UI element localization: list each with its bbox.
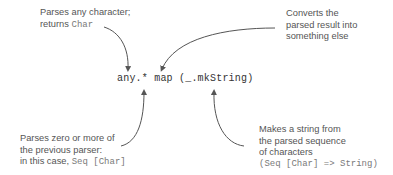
annotation-line: the parsed sequence xyxy=(259,136,378,148)
annotation-text: in this case, xyxy=(20,156,72,166)
annotation-line: Makes a string from xyxy=(259,124,378,136)
annotation-line: Converts the xyxy=(286,8,357,20)
annotation-line: parsed result into xyxy=(286,20,357,32)
parser-combinator-diagram: any.* map (_.mkString) Parses any charac… xyxy=(0,0,393,175)
inline-code-seq-char: Seq [Char] xyxy=(72,157,126,167)
annotation-repetition: Parses zero or more of the previous pars… xyxy=(20,133,126,169)
parser-expression: any.* map (_.mkString) xyxy=(117,73,253,84)
arrow-mkstring-icon xyxy=(214,92,244,146)
annotation-map: Converts the parsed result into somethin… xyxy=(286,8,357,43)
annotation-any-char: Parses any character; returns Char xyxy=(40,7,130,31)
inline-code-char: Char xyxy=(72,20,94,30)
annotation-text: returns xyxy=(40,19,72,29)
inline-code-signature: (Seq [Char] => String) xyxy=(259,159,378,171)
arrow-map-icon xyxy=(162,28,275,69)
annotation-line: the previous parser: xyxy=(20,145,126,157)
annotation-line: something else xyxy=(286,31,357,43)
annotation-line: Parses zero or more of xyxy=(20,133,126,145)
annotation-line: returns Char xyxy=(40,19,130,32)
annotation-line: Parses any character; xyxy=(40,7,130,19)
annotation-mkstring: Makes a string from the parsed sequence … xyxy=(259,124,378,170)
annotation-line: of characters xyxy=(259,147,378,159)
arrow-any-icon xyxy=(104,27,128,69)
annotation-line: in this case, Seq [Char] xyxy=(20,156,126,169)
